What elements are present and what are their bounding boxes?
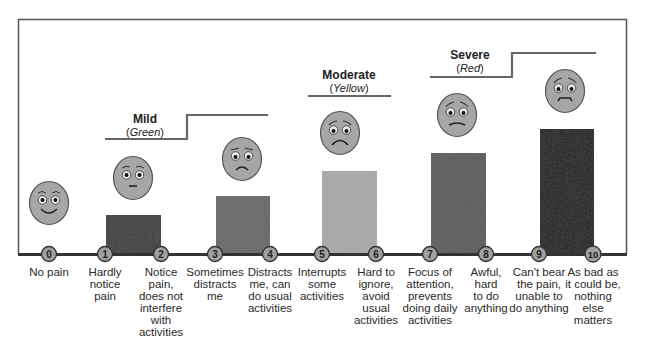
category-mild: Mild (Green) (95, 112, 195, 139)
category-name: Moderate (299, 68, 399, 82)
category-name: Mild (95, 112, 195, 126)
svg-text:2: 2 (158, 249, 164, 260)
marker-7: 7 (423, 247, 438, 262)
label-7: Focus ofattention,preventsdoing dailyact… (398, 266, 462, 326)
marker-1: 1 (98, 247, 113, 262)
marker-6: 6 (369, 247, 384, 262)
frown-face-icon (321, 112, 360, 155)
marker-5: 5 (315, 247, 330, 262)
svg-text:4: 4 (267, 249, 273, 260)
category-color-label: (Yellow) (299, 82, 399, 95)
grimace-face-icon (438, 94, 477, 137)
svg-text:10: 10 (588, 249, 599, 260)
bar-5-6 (322, 171, 377, 254)
svg-text:0: 0 (46, 249, 52, 260)
marker-0: 0 (42, 247, 57, 262)
category-color-label: (Green) (95, 126, 195, 139)
slight-frown-face-icon (223, 138, 262, 181)
neutral-face-icon (114, 157, 153, 200)
svg-text:5: 5 (319, 249, 325, 260)
marker-10: 10 (585, 246, 601, 262)
svg-text:1: 1 (102, 249, 108, 260)
marker-8: 8 (479, 247, 494, 262)
marker-9: 9 (532, 247, 547, 262)
svg-text:9: 9 (536, 249, 542, 260)
marker-3: 3 (208, 247, 223, 262)
category-color-label: (Red) (420, 62, 520, 75)
category-name: Severe (420, 48, 520, 62)
bar-3-4 (216, 196, 270, 254)
category-severe: Severe (Red) (420, 48, 520, 75)
svg-text:8: 8 (483, 249, 489, 260)
marker-2: 2 (154, 247, 169, 262)
label-0: No pain (17, 266, 81, 278)
smile-face-icon (30, 182, 69, 225)
svg-text:6: 6 (373, 249, 379, 260)
bar-1-2 (106, 215, 161, 254)
bar-9-10 (540, 129, 594, 254)
label-1: Hardlynoticepain (73, 266, 137, 302)
distressed-face-icon (546, 70, 585, 113)
label-10: As bad asit could be,nothingelsematters (561, 266, 625, 326)
bar-7-8 (431, 153, 486, 254)
svg-text:3: 3 (212, 249, 218, 260)
marker-4: 4 (263, 247, 278, 262)
category-moderate: Moderate (Yellow) (299, 68, 399, 95)
svg-text:7: 7 (427, 249, 433, 260)
